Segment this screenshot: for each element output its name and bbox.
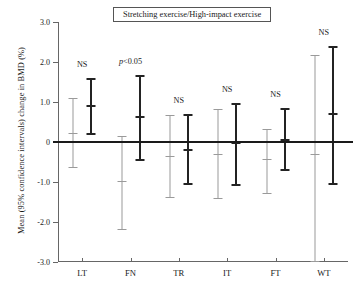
x-axis-line bbox=[58, 261, 348, 262]
error-bar-upper-cap bbox=[328, 46, 337, 48]
significance-annotation: NS bbox=[284, 28, 361, 37]
significance-annotation: NS bbox=[236, 90, 316, 99]
significance-annotation: NS bbox=[139, 96, 219, 105]
error-bar-upper-cap bbox=[135, 75, 144, 77]
x-axis-category-label: WT bbox=[294, 268, 354, 278]
y-tick-label: -1.0 bbox=[37, 178, 50, 187]
error-bar-upper-cap bbox=[165, 115, 174, 116]
mean-marker bbox=[69, 133, 78, 134]
x-tick bbox=[82, 258, 83, 262]
error-bar-upper-cap bbox=[214, 109, 223, 110]
chart-title-box: Stretching exercise/High-impact exercise bbox=[113, 7, 271, 22]
y-tick bbox=[53, 262, 58, 263]
y-tick bbox=[53, 182, 58, 183]
y-tick-label: -3.0 bbox=[37, 258, 50, 267]
plot-area: 3.02.01.00-1.0-2.0-3.0 LTNSFNp<0.05TRNSI… bbox=[58, 22, 348, 262]
error-bar-lower-cap bbox=[310, 261, 319, 262]
error-bar-stem bbox=[266, 129, 267, 193]
mean-marker bbox=[214, 154, 223, 155]
x-tick bbox=[179, 258, 180, 262]
mean-marker bbox=[310, 154, 319, 155]
error-bar-stem bbox=[121, 136, 122, 229]
error-bar-lower-cap bbox=[232, 184, 241, 186]
mean-marker bbox=[117, 181, 126, 182]
x-tick bbox=[131, 258, 132, 262]
error-bar-upper-cap bbox=[310, 55, 319, 56]
error-bar-lower-cap bbox=[214, 198, 223, 199]
error-bar-lower-cap bbox=[262, 193, 271, 194]
significance-annotation: p<0.05 bbox=[91, 57, 171, 66]
bmd-confidence-interval-chart: Mean (95% confidence intervals) change i… bbox=[0, 0, 361, 299]
mean-marker bbox=[87, 105, 96, 107]
error-bar-upper-cap bbox=[69, 98, 78, 99]
y-tick-label: 1.0 bbox=[40, 98, 50, 107]
error-bar-lower-cap bbox=[183, 183, 192, 185]
y-tick bbox=[53, 222, 58, 223]
error-bar-upper-cap bbox=[117, 136, 126, 137]
y-tick-label: 0 bbox=[46, 138, 50, 147]
mean-marker bbox=[183, 149, 192, 151]
error-bar-lower-cap bbox=[135, 159, 144, 161]
mean-marker bbox=[135, 116, 144, 118]
zero-reference-line bbox=[53, 141, 353, 143]
error-bar-lower-cap bbox=[165, 197, 174, 198]
y-tick-label: -2.0 bbox=[37, 218, 50, 227]
y-tick-label: 3.0 bbox=[40, 18, 50, 27]
error-bar-upper-cap bbox=[280, 108, 289, 110]
mean-marker bbox=[165, 156, 174, 157]
y-tick bbox=[53, 22, 58, 23]
x-tick bbox=[227, 258, 228, 262]
error-bar-lower-cap bbox=[87, 133, 96, 135]
error-bar-lower-cap bbox=[69, 167, 78, 168]
error-bar-stem bbox=[314, 55, 315, 261]
mean-marker bbox=[328, 113, 337, 115]
x-tick bbox=[276, 258, 277, 262]
error-bar-upper-cap bbox=[183, 114, 192, 116]
error-bar-lower-cap bbox=[117, 229, 126, 230]
mean-marker bbox=[262, 159, 271, 160]
error-bar-upper-cap bbox=[262, 129, 271, 130]
error-bar-upper-cap bbox=[87, 78, 96, 80]
y-axis-label: Mean (95% confidence intervals) change i… bbox=[17, 36, 26, 246]
error-bar-lower-cap bbox=[280, 169, 289, 171]
error-bar-lower-cap bbox=[328, 183, 337, 185]
error-bar-upper-cap bbox=[232, 103, 241, 105]
y-tick bbox=[53, 102, 58, 103]
x-tick bbox=[324, 258, 325, 262]
